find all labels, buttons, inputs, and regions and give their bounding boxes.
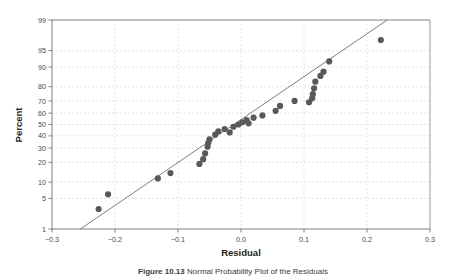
x-tick-label: 0.0 xyxy=(236,235,246,244)
x-tick-label: −0.2 xyxy=(108,235,122,244)
data-point xyxy=(291,98,297,104)
data-point xyxy=(215,128,221,134)
y-tick-label: 70 xyxy=(38,97,46,106)
probability-plot-canvas: −0.3−0.2−0.10.00.10.20.31510203040506070… xyxy=(0,0,466,278)
data-point xyxy=(277,103,283,109)
normal-probability-plot-figure: −0.3−0.2−0.10.00.10.20.31510203040506070… xyxy=(0,0,466,278)
x-tick-label: 0.1 xyxy=(299,235,309,244)
y-tick-label: 90 xyxy=(38,63,46,72)
x-axis-title: Residual xyxy=(221,247,261,258)
data-point xyxy=(245,120,251,126)
y-tick-label: 60 xyxy=(38,109,46,118)
x-tick-label: −0.1 xyxy=(171,235,185,244)
y-tick-label: 20 xyxy=(38,158,46,167)
y-tick-label: 95 xyxy=(38,46,46,55)
data-point xyxy=(155,175,161,181)
data-point xyxy=(320,69,326,75)
y-tick-label: 99 xyxy=(38,16,46,25)
data-point xyxy=(310,91,316,97)
figure-caption-label: Figure 10.13 xyxy=(138,267,185,276)
data-point xyxy=(378,37,384,43)
data-point xyxy=(96,206,102,212)
x-tick-label: −0.3 xyxy=(45,235,59,244)
data-point xyxy=(222,126,228,132)
data-point xyxy=(202,150,208,156)
data-point xyxy=(251,115,257,121)
data-point xyxy=(200,156,206,162)
data-point xyxy=(227,129,233,135)
data-point xyxy=(273,108,279,114)
data-point xyxy=(167,170,173,176)
data-point xyxy=(311,85,317,91)
y-tick-label: 80 xyxy=(38,82,46,91)
y-tick-label: 50 xyxy=(38,120,46,129)
data-point xyxy=(326,58,332,64)
y-tick-label: 5 xyxy=(42,194,46,203)
y-axis-title: Percent xyxy=(13,107,24,143)
y-tick-label: 1 xyxy=(42,225,46,234)
figure-caption: Figure 10.13 Normal Probability Plot of … xyxy=(0,266,466,278)
data-point xyxy=(259,112,265,118)
x-tick-label: 0.3 xyxy=(425,235,435,244)
x-tick-label: 0.2 xyxy=(362,235,372,244)
y-tick-label: 30 xyxy=(38,144,46,153)
data-point xyxy=(206,136,212,142)
data-point xyxy=(312,79,318,85)
data-point xyxy=(105,191,111,197)
figure-caption-body: Normal Probability Plot of the Residuals xyxy=(187,267,328,276)
y-tick-label: 40 xyxy=(38,131,46,140)
y-tick-label: 10 xyxy=(38,178,46,187)
